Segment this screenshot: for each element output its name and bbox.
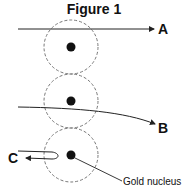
nucleus-3 — [67, 151, 76, 160]
nucleus-2 — [67, 97, 76, 106]
atom-1 — [44, 20, 98, 74]
atom-2 — [44, 74, 98, 128]
path-b-arrow — [18, 107, 155, 124]
path-c-arrow — [18, 151, 58, 159]
label-gold-nucleus: Gold nucleus — [123, 176, 181, 187]
rutherford-scattering-diagram: A B C Gold nucleus — [0, 0, 188, 194]
atom-3 — [44, 128, 98, 182]
nucleus-1 — [67, 43, 76, 52]
label-c: C — [8, 150, 18, 166]
label-a: A — [158, 21, 168, 37]
label-b: B — [158, 120, 168, 136]
